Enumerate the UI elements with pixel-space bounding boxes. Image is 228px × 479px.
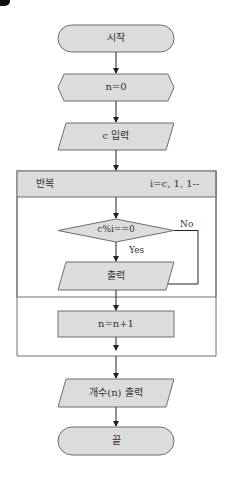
no-label: No	[180, 220, 193, 229]
end-label: 끝	[58, 436, 174, 446]
start-label: 시작	[58, 33, 174, 43]
loop-label: 반복	[36, 179, 54, 189]
flowchart-canvas	[0, 0, 228, 479]
increment-label: n=n+1	[58, 319, 174, 329]
init-label: n=0	[58, 82, 174, 92]
loop-range-label: i=c, 1, 1--	[150, 179, 199, 189]
input-label: c 입력	[58, 131, 174, 141]
condition-label: c%i==0	[58, 225, 174, 234]
yes-label: Yes	[129, 246, 144, 255]
final-output-label: 개수(n) 출력	[58, 388, 174, 398]
output-label: 출력	[58, 271, 174, 281]
